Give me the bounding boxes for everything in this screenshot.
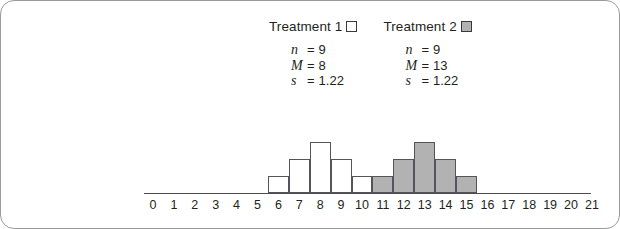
x-tick-label: 9 [338, 198, 345, 212]
legend-group-treatment-2: Treatment 2 n = 9 M = 13 s = 1.22 [383, 17, 471, 89]
x-tick-label: 2 [191, 198, 198, 212]
stat-symbol: s [405, 73, 421, 89]
legend-head-treatment-2: Treatment 2 [383, 17, 471, 35]
x-tick-label: 20 [564, 198, 578, 212]
legend-head-treatment-1: Treatment 1 [269, 17, 357, 35]
histogram-bar [289, 159, 310, 193]
stat-symbol: M [405, 58, 421, 74]
x-tick-label: 19 [543, 198, 557, 212]
stat-symbol: n [405, 42, 421, 58]
x-tick-label: 8 [317, 198, 324, 212]
stat-equals: = [307, 73, 315, 89]
x-tick-label: 4 [233, 198, 240, 212]
stat-row-n: n = 9 [405, 42, 458, 58]
x-tick-label: 1 [170, 198, 177, 212]
x-axis-line [144, 193, 591, 194]
x-tick-label: 5 [254, 198, 261, 212]
stats-treatment-2: n = 9 M = 13 s = 1.22 [405, 42, 458, 89]
histogram-bar [372, 176, 393, 193]
x-tick-label: 18 [522, 198, 536, 212]
stat-equals: = [421, 42, 429, 58]
stat-value: 1.22 [433, 73, 458, 89]
open-square-swatch [346, 21, 357, 32]
x-tick-label: 17 [501, 198, 515, 212]
legend: Treatment 1 n = 9 M = 8 s = 1.22 [269, 17, 472, 89]
stat-equals: = [307, 58, 315, 74]
stat-value: 13 [433, 58, 447, 74]
stat-row-n: n = 9 [291, 42, 344, 58]
stat-value: 8 [319, 58, 326, 74]
stat-row-m: M = 8 [291, 58, 344, 74]
histogram-bar [435, 159, 456, 193]
x-tick-label: 10 [355, 198, 369, 212]
x-tick-label: 11 [376, 198, 389, 212]
histogram-bar [456, 176, 477, 193]
filled-square-swatch [461, 21, 472, 32]
legend-group-treatment-1: Treatment 1 n = 9 M = 8 s = 1.22 [269, 17, 357, 89]
stat-row-m: M = 13 [405, 58, 458, 74]
stat-value: 9 [433, 42, 440, 58]
legend-label-treatment-2: Treatment 2 [383, 19, 456, 34]
histogram-figure-card: 0123456789101112131415161718192021 Treat… [0, 0, 620, 229]
stat-equals: = [307, 42, 315, 58]
x-tick-label: 7 [296, 198, 303, 212]
stat-equals: = [421, 58, 429, 74]
stat-symbol: M [291, 58, 307, 74]
histogram-bar [393, 159, 414, 193]
stat-row-s: s = 1.22 [405, 73, 458, 89]
stat-equals: = [421, 73, 429, 89]
x-tick-label: 16 [480, 198, 494, 212]
x-tick-label: 0 [150, 198, 157, 212]
stat-row-s: s = 1.22 [291, 73, 344, 89]
x-tick-label: 14 [439, 198, 453, 212]
histogram-bar [352, 176, 373, 193]
stats-treatment-1: n = 9 M = 8 s = 1.22 [291, 42, 344, 89]
histogram-bar [310, 142, 331, 193]
histogram-bar [268, 176, 289, 193]
stat-symbol: n [291, 42, 307, 58]
histogram-bar [414, 142, 435, 193]
x-tick-label: 13 [418, 198, 432, 212]
x-tick-label: 21 [585, 198, 599, 212]
stat-symbol: s [291, 73, 307, 89]
x-tick-label: 6 [275, 198, 282, 212]
x-tick-label: 15 [460, 198, 474, 212]
stat-value: 1.22 [319, 73, 344, 89]
stat-value: 9 [319, 42, 326, 58]
x-tick-label: 12 [397, 198, 411, 212]
histogram-bar [331, 159, 352, 193]
x-tick-label: 3 [212, 198, 219, 212]
legend-label-treatment-1: Treatment 1 [269, 19, 342, 34]
